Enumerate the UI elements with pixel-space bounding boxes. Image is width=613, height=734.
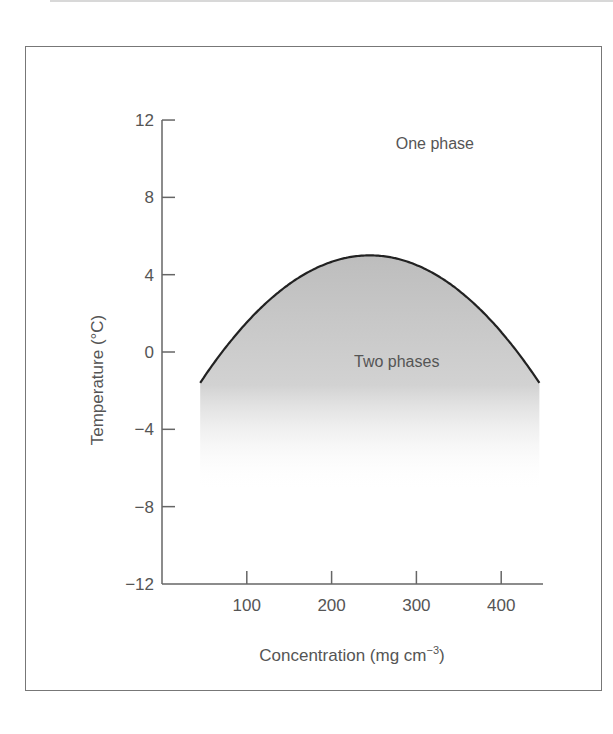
x-axis-ticks: 100200300400 [233, 571, 516, 615]
y-tick-label: 0 [145, 343, 154, 362]
y-tick-label: −8 [135, 498, 154, 517]
two-phase-region [200, 255, 539, 491]
phase-diagram-chart: 12840−4−8−12 100200300400 Temperature (°… [0, 0, 613, 734]
y-axis-label: Temperature (°C) [88, 315, 107, 446]
y-tick-label: 8 [145, 188, 154, 207]
y-tick-label: −12 [125, 575, 154, 594]
y-tick-label: −4 [135, 420, 154, 439]
x-tick-label: 200 [317, 596, 345, 615]
y-tick-label: 4 [145, 266, 154, 285]
x-axis-label: Concentration (mg cm−3) [259, 644, 444, 665]
region-label: One phase [396, 135, 474, 152]
x-tick-label: 100 [233, 596, 261, 615]
two-phase-fill [200, 255, 539, 491]
x-tick-label: 400 [487, 596, 515, 615]
y-tick-label: 12 [135, 111, 154, 130]
y-axis-ticks: 12840−4−8−12 [125, 111, 175, 594]
region-label: Two phases [354, 353, 439, 370]
x-tick-label: 300 [402, 596, 430, 615]
